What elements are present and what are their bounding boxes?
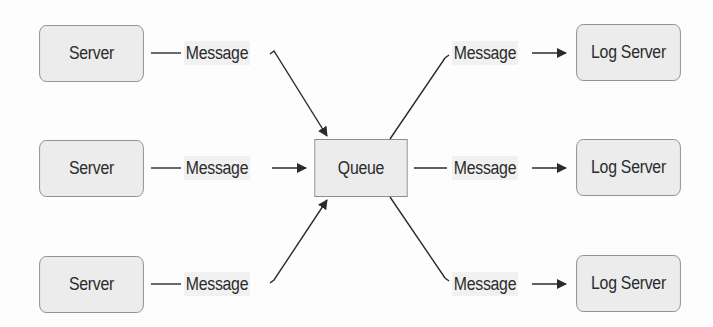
message-queue-diagram: Server Server Server Message Message Mes…	[0, 0, 713, 327]
message-label-out-2: Message	[452, 156, 518, 180]
log-server-node-2: Log Server	[576, 139, 681, 196]
log-server-node-label: Log Server	[591, 42, 666, 63]
log-server-node-label: Log Server	[591, 273, 666, 294]
message-label-in-1: Message	[184, 41, 250, 65]
log-server-node-3: Log Server	[576, 255, 681, 312]
server-node-label: Server	[69, 274, 114, 295]
server-node-1: Server	[39, 25, 144, 82]
log-server-node-label: Log Server	[591, 157, 666, 178]
server-node-label: Server	[69, 158, 114, 179]
message-label-out-3: Message	[452, 272, 518, 296]
queue-node-label: Queue	[338, 158, 384, 179]
server-node-2: Server	[39, 140, 144, 197]
message-label-in-3: Message	[184, 272, 250, 296]
log-server-node-1: Log Server	[576, 24, 681, 81]
queue-node: Queue	[314, 139, 407, 197]
server-node-3: Server	[39, 256, 144, 313]
message-label-in-2: Message	[184, 156, 250, 180]
message-label-out-1: Message	[452, 41, 518, 65]
server-node-label: Server	[69, 43, 114, 64]
